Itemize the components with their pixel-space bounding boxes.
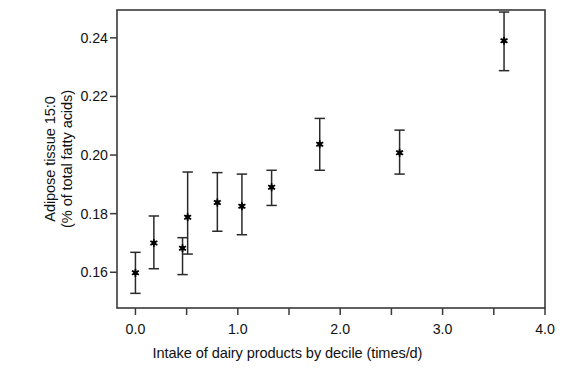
data-points-group: [130, 12, 509, 293]
marker-core: [215, 200, 219, 204]
data-point: [130, 252, 140, 293]
data-point: [149, 216, 159, 269]
plot-frame: [117, 10, 545, 308]
figure-container: Adipose tissue 15:0 (% of total fatty ac…: [0, 0, 575, 384]
data-point: [177, 238, 187, 275]
plot-canvas: [0, 0, 575, 384]
marker-core: [270, 185, 274, 189]
data-point: [182, 172, 192, 254]
data-point: [237, 174, 247, 235]
y-tick-marks: [110, 38, 117, 272]
data-point: [394, 130, 404, 174]
data-point: [499, 12, 509, 71]
x-tick-marks: [135, 308, 545, 315]
marker-core: [186, 215, 190, 219]
marker-core: [502, 39, 506, 43]
data-point: [315, 118, 325, 170]
marker-core: [180, 246, 184, 250]
marker-core: [133, 271, 137, 275]
marker-core: [240, 204, 244, 208]
data-point: [266, 170, 276, 205]
data-point: [212, 173, 222, 232]
marker-core: [398, 151, 402, 155]
marker-core: [318, 142, 322, 146]
marker-core: [152, 241, 156, 245]
